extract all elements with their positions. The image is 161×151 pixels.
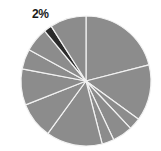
pie-chart [0, 0, 161, 151]
highlight-slice-label: 2% [32, 7, 49, 21]
